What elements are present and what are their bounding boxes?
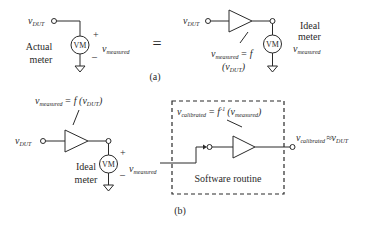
caption-b: (b)	[174, 205, 186, 217]
transfer-function-pointer	[240, 32, 248, 43]
calibration-diagram: vDUT VM + – Actual meter vmeasured = vDU…	[0, 0, 368, 229]
vmeasured-label: vmeasured	[102, 43, 131, 55]
vdut-input-label: vDUT	[15, 135, 32, 147]
ideal-label: Ideal	[300, 20, 320, 31]
vmeasured-label: vmeasured	[293, 43, 322, 55]
plus-sign: +	[93, 29, 99, 40]
input-terminal-icon	[41, 139, 46, 144]
minus-sign: –	[119, 169, 126, 180]
vdut-input-label: vDUT	[28, 15, 45, 27]
voltmeter-label: VM	[266, 40, 279, 49]
transfer-function-pointer	[73, 110, 79, 125]
measured-signal-wire	[160, 147, 203, 163]
equals-sign: =	[152, 35, 161, 52]
input-terminal-icon	[207, 145, 212, 150]
meter-label: meter	[75, 174, 98, 185]
vcalibrated-output-label: vcalibrated≈vDUT	[296, 132, 349, 144]
vmeasured-label: vmeasured	[129, 163, 158, 175]
ground-icon	[268, 66, 278, 72]
minus-sign: –	[91, 51, 98, 62]
amplifier-icon	[65, 130, 88, 152]
input-wire	[57, 21, 81, 36]
output-terminal-icon	[270, 19, 275, 24]
voltmeter-label: VM	[102, 160, 115, 169]
software-routine-title: Software routine	[195, 173, 262, 184]
actual-meter-circuit: vDUT VM + – Actual meter vmeasured	[26, 15, 131, 72]
arrow-icon	[203, 145, 207, 150]
output-terminal-icon	[106, 139, 111, 144]
amplifier-icon	[229, 10, 252, 32]
input-terminal-icon	[206, 19, 211, 24]
inverse-amplifier-icon	[233, 136, 255, 158]
meter-label: meter	[298, 31, 321, 42]
transfer-equation: vmeasured= f	[211, 48, 254, 60]
voltmeter-label: VM	[74, 41, 87, 50]
ideal-label: Ideal	[76, 161, 96, 172]
amp-transfer-equation: vmeasured= f (vDUT)	[35, 95, 103, 107]
software-routine-box: vcalibrated= f-1(vmeasured) Software rou…	[172, 101, 290, 194]
ideal-meter-circuit: vDUT VM vmeasured= f (vDUT) Ideal meter …	[183, 10, 322, 73]
ground-icon	[104, 185, 114, 191]
ground-icon	[75, 66, 85, 72]
output-terminal-icon	[290, 145, 295, 150]
vdut-input-label: vDUT	[183, 15, 200, 27]
actual-label: Actual	[26, 41, 53, 52]
caption-a: (a)	[149, 71, 160, 83]
transfer-equation-arg: (vDUT)	[222, 61, 246, 73]
meter-label: meter	[30, 54, 53, 65]
inverse-function-pointer	[227, 120, 242, 127]
plus-sign: +	[120, 147, 126, 158]
inverse-transfer-equation: vcalibrated= f-1(vmeasured)	[177, 106, 262, 118]
input-terminal-icon	[52, 19, 57, 24]
